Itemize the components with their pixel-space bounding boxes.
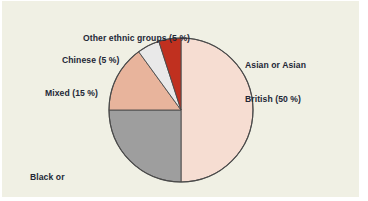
pie-chart-figure: Other ethnic groups (5 %) Chinese (5 %) …	[0, 0, 368, 201]
pie-label-asian-or-asian-british-line1: Asian or Asian	[245, 60, 306, 71]
pie-slice-black-or-black-british[interactable]	[109, 110, 181, 182]
pie-label-black-or-black-british: Black or Black British (25 %)	[30, 150, 112, 201]
pie-label-black-or-black-british-line1: Black or	[30, 172, 112, 183]
pie-label-asian-or-asian-british-line2: British (50 %)	[245, 94, 306, 105]
pie-slice-asian-or-asian-british[interactable]	[181, 38, 253, 182]
pie-label-mixed-line1: Mixed (15 %)	[45, 88, 98, 99]
pie-label-mixed: Mixed (15 %)	[45, 66, 98, 122]
pie-label-chinese-line1: Chinese (5 %)	[62, 55, 119, 66]
pie-label-asian-or-asian-british: Asian or Asian British (50 %)	[245, 38, 306, 128]
